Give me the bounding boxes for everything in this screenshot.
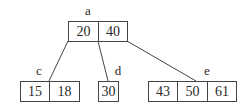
node-label-e: e bbox=[204, 63, 210, 78]
edge-a-e bbox=[127, 41, 196, 81]
node-label-a: a bbox=[85, 3, 91, 18]
node-d: d 30 bbox=[99, 63, 122, 102]
edge-a-c bbox=[49, 41, 68, 81]
node-c: c 15 18 bbox=[21, 63, 80, 102]
node-a: a 20 40 bbox=[69, 3, 128, 42]
key-value: 61 bbox=[215, 84, 229, 99]
key-value: 40 bbox=[106, 24, 120, 39]
node-e: e 43 50 61 bbox=[149, 63, 237, 102]
key-value: 15 bbox=[28, 84, 42, 99]
node-label-c: c bbox=[36, 63, 42, 78]
edge-a-d bbox=[98, 41, 108, 81]
b-tree-diagram: a 20 40 c 15 18 d 30 e 43 50 61 bbox=[0, 0, 248, 108]
key-value: 30 bbox=[102, 84, 116, 99]
node-label-d: d bbox=[115, 63, 122, 78]
key-value: 50 bbox=[186, 84, 200, 99]
key-value: 43 bbox=[156, 84, 170, 99]
key-value: 20 bbox=[77, 24, 91, 39]
key-value: 18 bbox=[58, 84, 72, 99]
